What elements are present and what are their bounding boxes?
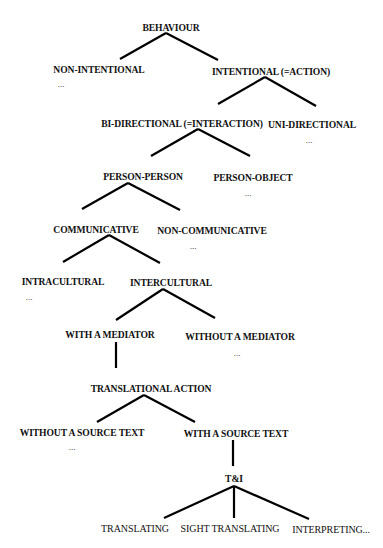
node-sight-translating: SIGHT TRANSLATING — [181, 523, 280, 534]
edge-intercultural-to-without-mediator — [163, 289, 215, 318]
node-intentional: INTENTIONAL (=ACTION) — [212, 66, 330, 77]
ellipsis-uni-directional: ... — [306, 136, 313, 145]
edge-bi-directional-to-person-object — [198, 129, 250, 156]
node-with-source-text: WITH A SOURCE TEXT — [184, 428, 288, 439]
edge-behaviour-to-non-intentional — [120, 33, 166, 59]
node-uni-directional: UNI-DIRECTIONAL — [268, 119, 356, 130]
ellipsis-non-communicative: ... — [190, 242, 197, 251]
edge-communicative-to-intracultural — [63, 235, 109, 262]
edge-translational-action-to-with-source-text — [144, 395, 195, 422]
node-person-person: PERSON-PERSON — [103, 171, 183, 182]
edge-behaviour-to-intentional — [166, 33, 218, 60]
ellipsis-non-intentional: ... — [58, 80, 65, 89]
node-communicative: COMMUNICATIVE — [53, 224, 138, 235]
node-person-object: PERSON-OBJECT — [213, 172, 292, 183]
node-behaviour: BEHAVIOUR — [142, 22, 199, 33]
node-non-communicative: NON-COMMUNICATIVE — [157, 225, 267, 236]
edge-translational-action-to-without-source-text — [97, 395, 144, 422]
edge-intercultural-to-with-mediator — [116, 289, 163, 320]
behaviour-taxonomy-tree: BEHAVIOURNON-INTENTIONALINTENTIONAL (=AC… — [0, 0, 383, 548]
node-non-intentional: NON-INTENTIONAL — [53, 64, 144, 75]
node-without-source-text: WITHOUT A SOURCE TEXT — [20, 427, 145, 438]
ellipsis-without-mediator: ... — [234, 349, 241, 358]
edge-person-person-to-non-communicative — [128, 183, 180, 210]
node-translational-action: TRANSLATIONAL ACTION — [91, 383, 212, 394]
edge-t-and-i-to-translating — [164, 486, 234, 518]
node-intracultural: INTRACULTURAL — [22, 276, 105, 287]
node-without-mediator: WITHOUT A MEDIATOR — [185, 331, 295, 342]
node-intercultural: INTERCULTURAL — [130, 277, 212, 288]
edge-t-and-i-to-interpreting — [234, 486, 309, 519]
edge-communicative-to-intercultural — [109, 235, 160, 263]
edge-intentional-to-bi-directional — [218, 77, 265, 104]
node-interpreting: INTERPRETING... — [292, 524, 370, 535]
ellipsis-intracultural: ... — [26, 293, 33, 302]
node-translating: TRANSLATING — [101, 523, 169, 534]
node-bi-directional: BI-DIRECTIONAL (=INTERACTION) — [101, 118, 263, 129]
edge-intentional-to-uni-directional — [265, 77, 316, 106]
ellipsis-person-object: ... — [245, 189, 252, 198]
node-with-mediator: WITH A MEDIATOR — [65, 329, 154, 340]
ellipsis-without-source-text: ... — [69, 443, 76, 452]
edge-person-person-to-communicative — [82, 183, 128, 209]
edge-bi-directional-to-person-person — [151, 129, 198, 156]
node-t-and-i: T&I — [225, 473, 243, 484]
